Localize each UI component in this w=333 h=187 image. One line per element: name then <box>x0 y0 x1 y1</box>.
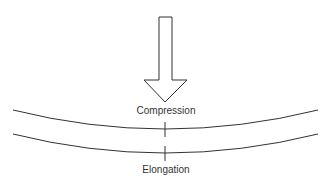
force-arrow-icon <box>144 17 187 102</box>
beam-diagram <box>0 0 333 187</box>
elongation-label: Elongation <box>142 164 189 175</box>
compression-label: Compression <box>137 105 196 116</box>
